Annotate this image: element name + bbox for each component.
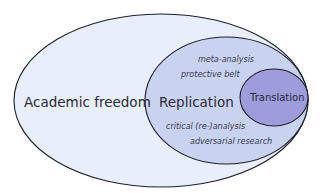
nested-ellipse-diagram: Academic freedom Replication meta-analys…	[0, 0, 323, 193]
academic-freedom-label: Academic freedom	[24, 94, 151, 110]
replication-label: Replication	[159, 94, 234, 110]
critical-reanalysis-label: critical (re-)analysis	[166, 122, 245, 131]
meta-analysis-label: meta-analysis	[198, 55, 254, 64]
protective-belt-label: protective belt	[180, 70, 241, 79]
adversarial-research-label: adversarial research	[190, 137, 272, 146]
translation-label: Translation	[249, 92, 305, 103]
